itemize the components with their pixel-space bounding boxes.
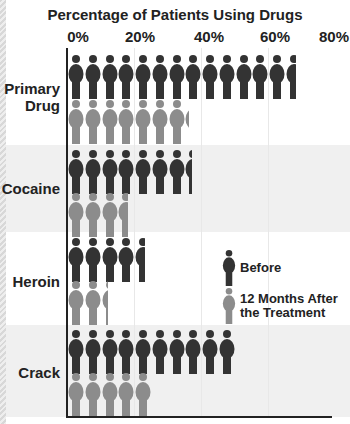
person-icon xyxy=(169,330,187,374)
pictograph-bar xyxy=(68,373,152,417)
person-icon xyxy=(202,55,220,99)
tick-0: 0% xyxy=(67,28,89,45)
pictograph-bar xyxy=(68,55,296,99)
category-line: Primary xyxy=(4,80,60,97)
person-icon xyxy=(68,238,86,282)
person-icon xyxy=(85,330,103,374)
legend-label-after: 12 Months After the Treatment xyxy=(240,292,338,320)
person-icon xyxy=(85,281,103,325)
person-icon xyxy=(169,100,187,144)
person-icon xyxy=(269,55,287,99)
person-icon xyxy=(152,330,170,374)
person-icon xyxy=(68,100,86,144)
legend-after: 12 Months After the Treatment xyxy=(222,288,338,324)
pictograph-bar xyxy=(68,281,108,325)
category-label-heroin: Heroin xyxy=(12,273,60,290)
person-icon xyxy=(185,100,188,144)
person-icon xyxy=(135,55,153,99)
tick-40: 40% xyxy=(194,28,224,45)
person-icon xyxy=(85,150,103,194)
person-icon xyxy=(219,55,237,99)
tick-20: 20% xyxy=(125,28,155,45)
person-icon xyxy=(68,373,86,417)
gridline-60 xyxy=(268,48,269,417)
y-axis-line xyxy=(66,48,68,418)
category-line: Crack xyxy=(18,364,60,381)
person-icon xyxy=(118,238,136,282)
category-line: Heroin xyxy=(12,273,60,290)
person-icon xyxy=(152,100,170,144)
person-icon xyxy=(68,150,86,194)
person-icon xyxy=(85,100,103,144)
pictograph-bar xyxy=(68,193,128,237)
tick-60: 60% xyxy=(260,28,290,45)
legend-line: 12 Months After xyxy=(240,291,338,306)
person-icon xyxy=(152,55,170,99)
person-icon xyxy=(118,100,136,144)
legend-label-before: Before xyxy=(240,261,281,275)
person-icon xyxy=(118,150,136,194)
x-axis-line xyxy=(66,416,332,418)
person-icon xyxy=(185,150,192,194)
category-label-primary-drug: Primary Drug xyxy=(4,80,60,114)
person-icon xyxy=(85,193,103,237)
category-line: Cocaine xyxy=(2,180,60,197)
person-icon xyxy=(102,330,120,374)
person-icon xyxy=(169,55,187,99)
person-icon xyxy=(102,373,120,417)
person-icon xyxy=(135,373,152,417)
legend-before: Before xyxy=(222,250,281,286)
person-icon xyxy=(236,55,254,99)
person-icon xyxy=(85,373,103,417)
person-icon xyxy=(102,55,120,99)
tick-80: 80% xyxy=(319,28,349,45)
person-icon xyxy=(135,100,153,144)
person-icon xyxy=(185,55,203,99)
pictograph-bar xyxy=(68,238,145,282)
person-icon xyxy=(135,238,145,282)
person-icon xyxy=(222,250,236,286)
person-icon xyxy=(118,193,128,237)
pictograph-bar xyxy=(68,150,192,194)
person-icon xyxy=(68,193,86,237)
person-icon xyxy=(102,100,120,144)
person-icon xyxy=(102,193,120,237)
pictograph-bar xyxy=(68,100,189,144)
pictograph-bar xyxy=(68,330,236,374)
person-icon xyxy=(102,238,120,282)
person-icon xyxy=(135,330,153,374)
person-icon xyxy=(118,373,136,417)
category-line: Drug xyxy=(4,97,60,114)
person-icon xyxy=(68,55,86,99)
person-icon xyxy=(135,150,153,194)
legend-line: the Treatment xyxy=(240,305,325,320)
person-icon xyxy=(222,288,236,324)
person-icon xyxy=(286,55,296,99)
person-icon xyxy=(152,150,170,194)
category-label-crack: Crack xyxy=(18,364,60,381)
category-label-cocaine: Cocaine xyxy=(2,180,60,197)
person-icon xyxy=(85,55,103,99)
person-icon xyxy=(252,55,270,99)
person-icon xyxy=(118,55,136,99)
person-icon xyxy=(102,150,120,194)
person-icon xyxy=(68,330,86,374)
person-icon xyxy=(202,330,220,374)
person-icon xyxy=(68,281,86,325)
person-icon xyxy=(102,281,109,325)
person-icon xyxy=(185,330,203,374)
person-icon xyxy=(85,238,103,282)
person-icon xyxy=(118,330,136,374)
person-icon xyxy=(169,150,187,194)
chart-title: Percentage of Patients Using Drugs xyxy=(0,6,350,23)
person-icon xyxy=(219,330,236,374)
